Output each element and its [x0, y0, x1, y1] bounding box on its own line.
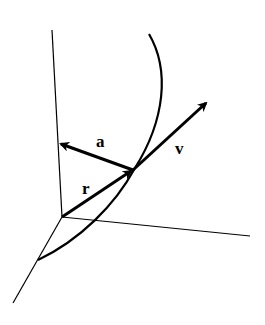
position-vector: [62, 171, 131, 217]
horizontal-axis: [62, 217, 250, 236]
velocity-vector: [133, 103, 206, 170]
vertical-axis: [52, 30, 62, 217]
label-a: a: [96, 132, 105, 151]
label-r: r: [82, 179, 90, 198]
label-v: v: [175, 139, 184, 158]
depth-axis: [13, 217, 62, 303]
vector-diagram: a v r: [0, 0, 265, 325]
